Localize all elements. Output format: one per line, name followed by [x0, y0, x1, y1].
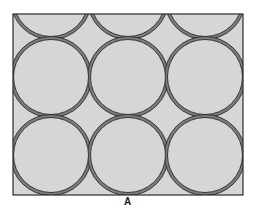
- circle-packing-diagram: [0, 0, 255, 215]
- large-circle: [14, 118, 89, 193]
- large-circle: [14, 40, 89, 115]
- large-circle: [168, 40, 243, 115]
- large-circle: [91, 40, 166, 115]
- figure-label: A: [0, 195, 255, 209]
- large-circle: [168, 118, 243, 193]
- circle-layer: [14, 0, 243, 193]
- large-circle: [91, 118, 166, 193]
